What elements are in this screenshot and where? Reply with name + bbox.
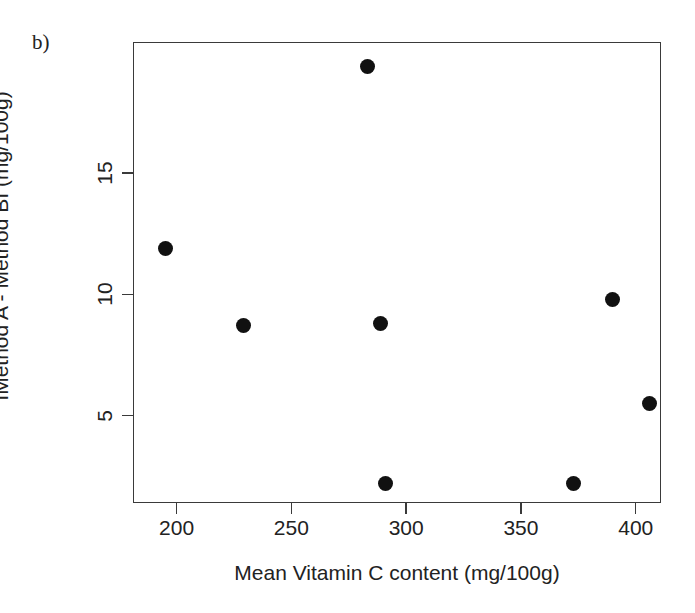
x-tick-mark bbox=[520, 503, 522, 514]
plot-data-area bbox=[133, 42, 661, 503]
y-tick-mark bbox=[122, 172, 133, 174]
y-tick-label: 15 bbox=[93, 160, 117, 186]
panel-label: b) bbox=[32, 30, 50, 55]
scatter-plot-figure: b) 200250300350400 51015 Mean Vitamin C … bbox=[0, 0, 695, 613]
y-tick-mark bbox=[122, 415, 133, 417]
y-axis-title: IMethod A - Method BI (mg/100g) bbox=[0, 54, 13, 515]
x-tick-label: 250 bbox=[251, 516, 331, 540]
y-tick-label: 5 bbox=[93, 403, 117, 429]
data-point bbox=[605, 292, 620, 307]
x-tick-mark bbox=[405, 503, 407, 514]
data-point bbox=[158, 241, 173, 256]
data-point bbox=[566, 476, 581, 491]
x-tick-mark bbox=[291, 503, 293, 514]
x-tick-mark bbox=[176, 503, 178, 514]
data-point bbox=[373, 316, 388, 331]
x-tick-label: 300 bbox=[366, 516, 446, 540]
x-axis-title: Mean Vitamin C content (mg/100g) bbox=[133, 561, 661, 585]
data-point bbox=[378, 476, 393, 491]
y-tick-mark bbox=[122, 294, 133, 296]
y-tick-label: 10 bbox=[93, 281, 117, 307]
x-tick-mark bbox=[635, 503, 637, 514]
data-point bbox=[360, 59, 375, 74]
x-tick-label: 200 bbox=[137, 516, 217, 540]
x-tick-label: 350 bbox=[481, 516, 561, 540]
x-tick-label: 400 bbox=[596, 516, 676, 540]
data-point bbox=[236, 318, 251, 333]
data-point bbox=[642, 396, 657, 411]
